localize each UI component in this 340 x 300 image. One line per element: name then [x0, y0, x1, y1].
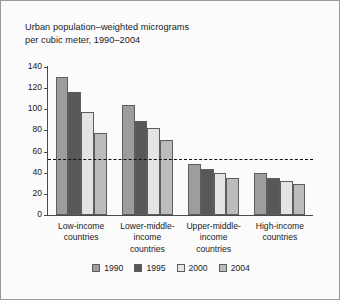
y-tick-mark	[44, 173, 48, 174]
plot-area: 020406080100120140	[48, 67, 313, 215]
y-tick-label: 100	[28, 103, 42, 113]
legend-swatch	[177, 264, 185, 272]
bar	[68, 92, 81, 215]
category-label: Upper-middle- income countries	[181, 221, 247, 255]
bar-group	[56, 67, 107, 215]
y-tick-label: 40	[32, 167, 42, 177]
y-tick-label: 0	[37, 209, 42, 219]
legend-label: 2000	[189, 263, 208, 273]
bar	[81, 112, 94, 215]
bar	[147, 128, 160, 215]
chart-figure: Urban population–weighted micrograms per…	[0, 0, 340, 300]
legend-item[interactable]: 2000	[177, 263, 208, 273]
bar	[135, 121, 148, 215]
legend-item[interactable]: 1990	[92, 263, 123, 273]
y-tick-mark	[44, 215, 48, 216]
legend-label: 1995	[146, 263, 165, 273]
y-tick-mark	[44, 152, 48, 153]
y-tick-mark	[44, 130, 48, 131]
y-tick-label: 60	[32, 146, 42, 156]
legend-swatch	[92, 264, 100, 272]
y-tick-label: 120	[28, 82, 42, 92]
y-tick-mark	[44, 67, 48, 68]
bar	[267, 178, 280, 215]
y-tick-label: 140	[28, 61, 42, 71]
y-tick-label: 80	[32, 124, 42, 134]
bar	[280, 181, 293, 215]
bar	[293, 184, 306, 215]
legend-swatch	[134, 264, 142, 272]
y-tick-mark	[44, 194, 48, 195]
legend-item[interactable]: 1995	[134, 263, 165, 273]
bar	[94, 133, 107, 215]
y-tick-label: 20	[32, 188, 42, 198]
category-label: Lower-middle- income countries	[114, 221, 180, 255]
bar	[188, 164, 201, 215]
y-tick-mark	[44, 88, 48, 89]
bar	[160, 140, 173, 215]
category-label: Low-income countries	[48, 221, 114, 244]
legend-label: 2004	[231, 263, 250, 273]
x-axis-line	[47, 215, 313, 216]
bar	[201, 169, 214, 216]
bar	[226, 178, 239, 215]
bar	[56, 77, 69, 215]
bar-group	[122, 67, 173, 215]
reference-line	[48, 159, 313, 160]
chart-legend: 1990199520002004	[1, 263, 340, 273]
bar-group	[188, 67, 239, 215]
legend-item[interactable]: 2004	[219, 263, 250, 273]
chart-title: Urban population–weighted micrograms per…	[25, 21, 315, 46]
legend-label: 1990	[104, 263, 123, 273]
bar	[122, 105, 135, 215]
bar	[214, 173, 227, 215]
y-tick-mark	[44, 109, 48, 110]
legend-swatch	[219, 264, 227, 272]
category-label: High-income countries	[247, 221, 313, 244]
bar	[254, 173, 267, 215]
bar-group	[254, 67, 305, 215]
